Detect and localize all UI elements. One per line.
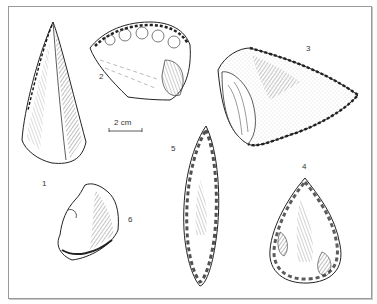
scale-bar-label: 2 cm — [114, 118, 131, 127]
artifact-2-number: 2 — [99, 73, 103, 81]
artifact-4-number: 4 — [302, 163, 306, 171]
artifact-2-scraper — [90, 22, 190, 100]
artifact-4-handaxe — [270, 178, 341, 283]
artifact-6-number: 6 — [128, 216, 132, 224]
artifact-5-number: 5 — [171, 145, 175, 153]
artifact-6-flake — [58, 184, 118, 260]
scale-bar — [109, 128, 142, 132]
artifact-3-number: 3 — [306, 45, 310, 53]
artifact-1-blade — [22, 22, 86, 163]
artifact-1-number: 1 — [42, 180, 46, 188]
artifact-drawings — [0, 0, 377, 304]
artifact-3-point — [218, 48, 358, 145]
artifact-5-leaf-point — [184, 126, 219, 286]
